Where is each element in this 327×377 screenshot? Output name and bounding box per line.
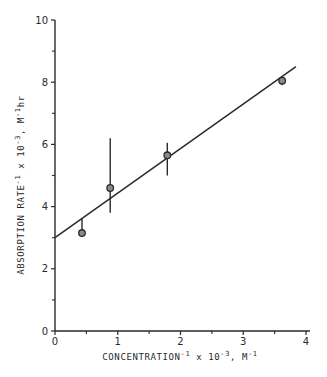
y-axis-label: ABSORPTION RATE-1 x 10-3, M-1hr <box>14 95 26 274</box>
y-tick-label: 2 <box>42 263 48 274</box>
data-point <box>107 185 114 192</box>
data-point <box>164 152 171 159</box>
data-point <box>279 77 286 84</box>
axes: 024681001234 <box>35 15 310 348</box>
chart: 024681001234 CONCENTRATION-1 x 10-3, M-1… <box>0 0 327 377</box>
x-tick-label: 1 <box>115 336 121 347</box>
regression-line <box>55 67 296 238</box>
fit-line <box>55 67 296 238</box>
y-tick-label: 4 <box>42 201 48 212</box>
data-point <box>79 230 86 237</box>
x-tick-label: 0 <box>52 336 58 347</box>
y-tick-label: 0 <box>42 326 48 337</box>
x-axis-label: CONCENTRATION-1 x 10-3, M-1 <box>102 350 257 362</box>
y-tick-label: 6 <box>42 139 48 150</box>
x-tick-label: 3 <box>240 336 246 347</box>
y-tick-label: 10 <box>35 15 48 26</box>
x-tick-label: 2 <box>177 336 183 347</box>
x-tick-label: 4 <box>303 336 309 347</box>
data-points <box>79 77 286 236</box>
y-tick-label: 8 <box>42 77 48 88</box>
